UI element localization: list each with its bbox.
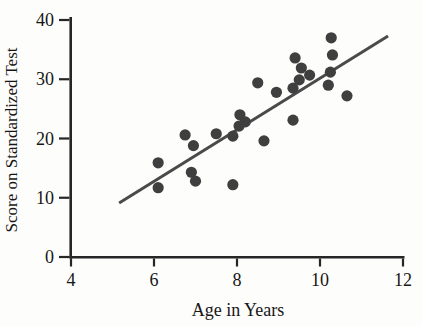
y-axis-label: Score on Standardized Test xyxy=(2,47,21,232)
trend-line xyxy=(119,36,388,203)
data-point xyxy=(304,70,315,81)
x-tick-label: 12 xyxy=(394,270,412,290)
data-point xyxy=(271,87,282,98)
x-axis-label: Age in Years xyxy=(192,300,285,320)
x-tick-label: 10 xyxy=(311,270,329,290)
x-tick-label: 4 xyxy=(67,270,76,290)
x-ticks-group: 4681012 xyxy=(67,259,413,291)
scatter-plot-figure: 4681012 010203040 Score on Standardized … xyxy=(0,0,422,327)
data-point xyxy=(153,182,164,193)
data-point xyxy=(325,67,336,78)
y-tick-label: 10 xyxy=(36,188,54,208)
scatter-plot: 4681012 010203040 Score on Standardized … xyxy=(0,0,422,327)
data-point xyxy=(287,115,298,126)
data-point xyxy=(327,49,338,60)
data-point xyxy=(227,179,238,190)
data-point xyxy=(252,77,263,88)
data-point xyxy=(240,116,251,127)
y-tick-label: 30 xyxy=(36,69,54,89)
data-point xyxy=(290,52,301,63)
data-point xyxy=(188,140,199,151)
y-ticks-group: 010203040 xyxy=(36,10,69,267)
y-tick-label: 40 xyxy=(36,10,54,30)
data-point xyxy=(294,74,305,85)
data-point xyxy=(180,129,191,140)
x-tick-label: 6 xyxy=(150,270,159,290)
x-tick-label: 8 xyxy=(233,270,242,290)
data-point xyxy=(190,176,201,187)
data-point xyxy=(326,32,337,43)
data-point xyxy=(258,135,269,146)
data-point xyxy=(323,80,334,91)
trend-line-group xyxy=(119,36,388,203)
data-point xyxy=(153,157,164,168)
data-point xyxy=(341,90,352,101)
data-points-group xyxy=(153,32,353,193)
data-point xyxy=(211,128,222,139)
data-point xyxy=(227,131,238,142)
y-tick-label: 20 xyxy=(36,129,54,149)
y-tick-label: 0 xyxy=(45,247,54,267)
